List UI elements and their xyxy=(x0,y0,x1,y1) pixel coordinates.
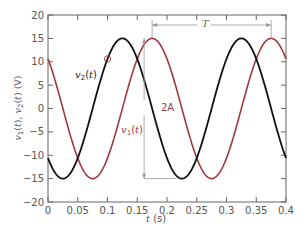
svg-text:v1(t), v2(t) (V): v1(t), v2(t) (V) xyxy=(12,75,25,140)
x-tick-label: 0 xyxy=(45,205,51,216)
y-tick-label: 0 xyxy=(38,103,44,114)
amplitude-arrow-bottom xyxy=(142,174,146,179)
x-tick-label: 0.35 xyxy=(245,205,267,216)
period-arrow-left xyxy=(152,23,157,27)
period-label: T xyxy=(202,18,210,29)
y-tick-label: 5 xyxy=(38,80,44,91)
y-tick-label: 10 xyxy=(31,56,44,67)
amplitude-label: 2A xyxy=(161,102,174,113)
y-tick-label: −20 xyxy=(23,197,44,208)
x-tick-label: 0.4 xyxy=(278,205,294,216)
x-tick-label: 0.05 xyxy=(67,205,89,216)
y-axis-label: v1(t), v2(t) (V) xyxy=(12,75,25,140)
v2-label: v2(t) xyxy=(75,69,97,82)
y-tick-label: 15 xyxy=(31,33,44,44)
x-tick-label: 0.1 xyxy=(100,205,116,216)
v1-label: v1(t) xyxy=(121,124,143,137)
x-tick-label: 0.25 xyxy=(186,205,208,216)
amplitude-arrow-top xyxy=(142,38,146,43)
x-tick-label: 0.3 xyxy=(219,205,235,216)
y-tick-label: −5 xyxy=(29,126,44,137)
y-tick-label: 20 xyxy=(31,10,44,21)
y-tick-label: −10 xyxy=(23,150,44,161)
y-tick-label: −15 xyxy=(23,173,44,184)
chart: 00.050.10.150.20.250.30.350.420151050−5−… xyxy=(0,0,306,240)
period-arrow-right xyxy=(266,23,271,27)
x-axis-label: t (s) xyxy=(146,213,166,224)
